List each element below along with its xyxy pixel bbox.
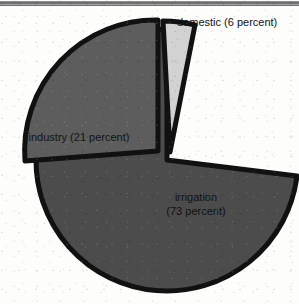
pie-label-irrigation-line2: (73 percent) [166, 205, 225, 217]
pie-label-irrigation-line1: irrigation [175, 191, 217, 203]
pie-slice-domestic[interactable] [163, 21, 195, 152]
pie-label-industry: industry (21 percent) [29, 131, 130, 143]
pie-chart: irrigation (73 percent) industry (21 per… [0, 0, 299, 304]
pie-label-domestic: domestic (6 percent) [177, 16, 277, 28]
pie-chart-figure: irrigation (73 percent) industry (21 per… [0, 0, 299, 304]
